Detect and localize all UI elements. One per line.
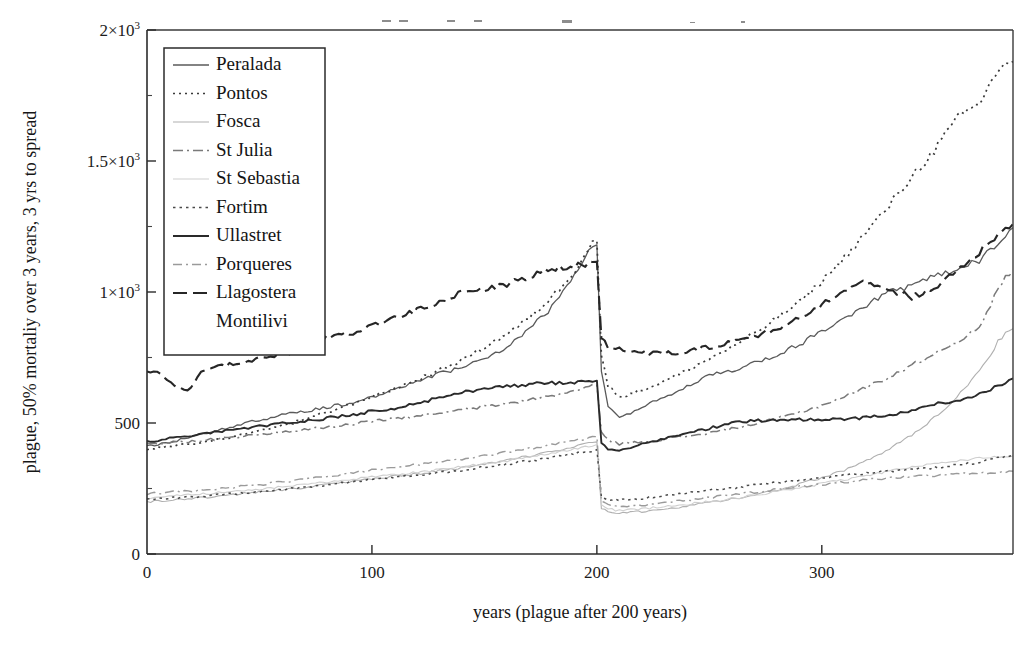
y-tick-label-0: 0	[132, 545, 141, 564]
legend-label-pontos: Pontos	[216, 82, 268, 103]
legend-label-ullastret: Ullastret	[216, 224, 282, 245]
legend-label-llagostera: Llagostera	[216, 281, 297, 302]
scan-speck-2	[447, 20, 455, 22]
y-tick-label-2000: 2×103	[99, 19, 140, 40]
y-tick-label-1500: 1.5×103	[87, 150, 141, 171]
figure-background	[0, 0, 1034, 653]
y-axis-title: plague, 50% mortaliy over 3 years, 3 yrs…	[20, 111, 40, 473]
x-axis-title: years (plague after 200 years)	[473, 602, 687, 623]
legend-label-peralada: Peralada	[216, 53, 282, 74]
scan-speck-4	[562, 20, 572, 23]
legend-label-fosca: Fosca	[216, 110, 261, 131]
x-tick-label-0: 0	[143, 563, 152, 582]
x-tick-label-100: 100	[359, 563, 385, 582]
legend-label-st-sebastia: St Sebastia	[216, 167, 300, 188]
legend-item-montilivi[interactable]: Montilivi	[216, 310, 288, 331]
scan-speck-6	[741, 21, 745, 23]
legend-label-st-julia: St Julia	[216, 139, 273, 160]
scan-speck-3	[474, 20, 482, 22]
legend-label-porqueres: Porqueres	[216, 253, 292, 274]
plague-mortality-chart-figure: 05001×1031.5×1032×103 0100200300 years (…	[0, 0, 1034, 653]
series-legend[interactable]: PeraladaPontosFoscaSt JuliaSt SebastiaFo…	[164, 48, 325, 355]
legend-label-fortim: Fortim	[216, 196, 268, 217]
scan-speck-0	[382, 20, 391, 22]
x-tick-label-200: 200	[584, 563, 610, 582]
y-tick-label-1000: 1×103	[99, 281, 140, 302]
y-tick-label-500: 500	[115, 414, 141, 433]
legend-label-montilivi: Montilivi	[216, 310, 288, 331]
scan-speck-1	[399, 20, 408, 22]
x-tick-label-300: 300	[809, 563, 835, 582]
scan-speck-5	[690, 22, 695, 23]
